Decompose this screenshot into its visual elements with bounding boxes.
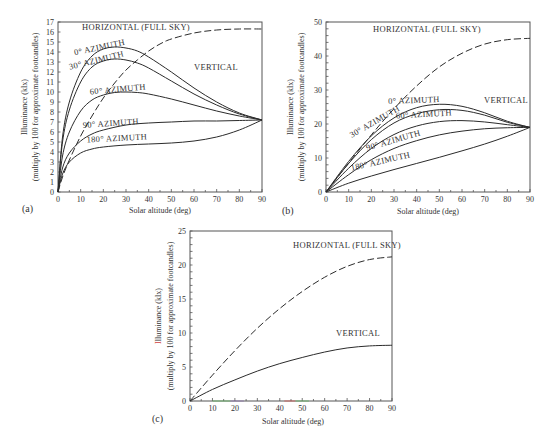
y-tick-label: 20 [314,120,322,129]
curve-label: 60° AZIMUTH [396,108,452,121]
x-axis-title: Solar altitude (deg) [129,206,191,215]
x-tick-label: 0 [324,195,328,204]
x-tick-label: 10 [77,195,85,204]
y-tick-label: 14 [46,48,54,57]
curve-label: 180° AZIMUTH [350,149,411,172]
x-tick-label: 50 [167,195,175,204]
y-tick-label: 7 [50,118,54,127]
x-axis: 0102030405060708090 [56,189,266,204]
x-axis: 0102030405060708090 [188,398,396,413]
series-line [190,345,392,401]
x-tick-label: 30 [253,404,261,413]
y-tick-label: 15 [46,38,54,47]
figure-canvas: 0102030405060708090012345678910111213141… [0,0,551,445]
y-axis-title: Illuminance (klx) [286,79,295,135]
chart-panel-c: 01020304050607080900510152025Solar altit… [152,227,401,426]
y-tick-label: 5 [50,138,54,147]
curve-label: VERTICAL [194,62,238,72]
curve-label: VERTICAL [336,328,380,338]
x-tick-label: 10 [345,195,353,204]
y-axis-subtitle: (multiply by 100 for approximate footcan… [297,32,306,181]
y-tick-label: 12 [46,68,54,77]
curve-label: HORIZONTAL (FULL SKY) [293,240,401,250]
x-tick-label: 10 [208,404,216,413]
curve-labels: HORIZONTAL (FULL SKY)0° AZIMUTH30° AZIMU… [348,24,528,173]
curve-label: 60° AZIMUTH [89,82,146,97]
y-tick-label: 6 [50,128,54,137]
x-tick-label: 90 [388,404,396,413]
y-tick-label: 5 [182,363,186,372]
y-tick-label: 25 [178,227,186,236]
y-tick-label: 1 [50,178,54,187]
y-tick-label: 50 [314,18,322,27]
x-tick-label: 20 [367,195,375,204]
series-line [58,120,262,192]
x-tick-label: 20 [231,404,239,413]
x-tick-label: 80 [235,195,243,204]
y-tick-label: 10 [178,329,186,338]
x-tick-label: 90 [258,195,266,204]
x-tick-label: 90 [526,195,534,204]
y-tick-label: 0 [50,188,54,197]
y-axis-subtitle: (multiply by 100 for approximate footcan… [31,32,40,181]
y-axis-title: Illuminance (klx) [20,79,29,135]
x-tick-label: 0 [56,195,60,204]
panel-label: (b) [282,205,294,217]
x-tick-label: 20 [99,195,107,204]
y-tick-label: 11 [46,78,54,87]
series-line [326,109,530,192]
y-tick-label: 17 [46,18,54,27]
x-tick-label: 40 [145,195,153,204]
x-tick-label: 80 [503,195,511,204]
x-tick-label: 60 [190,195,198,204]
curve-label: VERTICAL [484,95,528,105]
x-tick-label: 60 [321,404,329,413]
x-axis: 0102030405060708090 [324,189,534,204]
x-tick-label: 70 [213,195,221,204]
x-tick-label: 40 [276,404,284,413]
y-tick-label: 10 [46,88,54,97]
x-axis-title: Solar altitude (deg) [262,417,324,426]
x-tick-label: 30 [122,195,130,204]
curve-labels: HORIZONTAL (FULL SKY)VERTICAL [293,240,401,338]
y-tick-label: 4 [50,148,54,157]
x-axis-title: Solar altitude (deg) [397,207,459,216]
y-tick-label: 0 [182,397,186,406]
plot-frame [190,231,392,401]
x-tick-label: 50 [298,404,306,413]
y-tick-label: 10 [314,154,322,163]
curve-label: 180° AZIMUTH [86,131,147,144]
y-tick-label: 15 [178,295,186,304]
curve-label: HORIZONTAL (FULL SKY) [373,24,481,34]
x-tick-label: 70 [481,195,489,204]
x-tick-label: 40 [413,195,421,204]
chart-panel-b: 010203040506070809001020304050Solar alti… [282,18,534,217]
y-tick-label: 3 [50,158,54,167]
y-axis-title: Illuminance (klx) [154,288,163,344]
x-tick-label: 30 [390,195,398,204]
y-tick-label: 20 [178,261,186,270]
chart-panel-a: 0102030405060708090012345678910111213141… [20,18,266,215]
y-axis-subtitle: (multiply by 100 for approximate footcan… [166,241,175,390]
y-tick-label: 2 [50,168,54,177]
y-tick-label: 16 [46,28,54,37]
x-tick-label: 70 [343,404,351,413]
y-tick-label: 0 [318,188,322,197]
series-line [58,120,262,192]
x-tick-label: 60 [458,195,466,204]
y-tick-label: 9 [50,98,54,107]
curve-labels: HORIZONTAL (FULL SKY)0° AZIMUTH30° AZIMU… [68,22,238,145]
x-tick-label: 80 [366,404,374,413]
x-tick-label: 50 [435,195,443,204]
y-tick-label: 8 [50,108,54,117]
y-tick-label: 30 [314,86,322,95]
panel-label: (a) [22,203,33,215]
x-tick-label: 0 [188,404,192,413]
panel-label: (c) [152,413,163,425]
figure: 0102030405060708090012345678910111213141… [0,0,551,445]
y-tick-label: 40 [314,52,322,61]
y-tick-label: 13 [46,58,54,67]
curve-label: HORIZONTAL (FULL SKY) [82,22,190,32]
